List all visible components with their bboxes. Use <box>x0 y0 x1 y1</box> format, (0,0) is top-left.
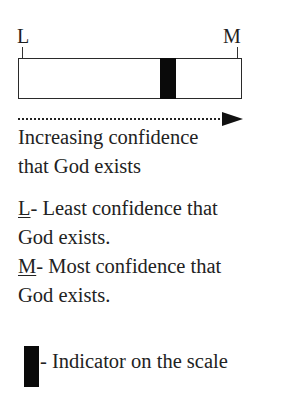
legend-indicator-desc: - Indicator on the scale <box>40 350 228 372</box>
legend-l-line1: L- Least confidence that <box>18 197 218 219</box>
legend-l-line2: God exists. <box>18 226 110 248</box>
right-tick <box>237 47 238 58</box>
scale-indicator-marker <box>160 58 176 99</box>
scale-right-label: M <box>223 26 241 46</box>
legend-m-desc: - Most confidence that <box>36 255 221 277</box>
legend-indicator-swatch <box>24 346 39 387</box>
left-tick <box>22 47 23 58</box>
direction-arrow-line <box>18 118 224 120</box>
arrow-caption-line2: that God exists <box>18 155 141 177</box>
legend-m-line2: God exists. <box>18 284 110 306</box>
legend-l-key: L <box>18 197 31 219</box>
arrow-right-icon <box>222 112 243 126</box>
legend-l-desc: - Least confidence that <box>31 197 218 219</box>
legend-m-key: M <box>18 255 36 277</box>
scale-bar <box>18 58 242 99</box>
legend-m-line1: M- Most confidence that <box>18 255 221 277</box>
arrow-caption-line1: Increasing confidence <box>18 126 198 148</box>
scale-left-label: L <box>17 26 29 46</box>
